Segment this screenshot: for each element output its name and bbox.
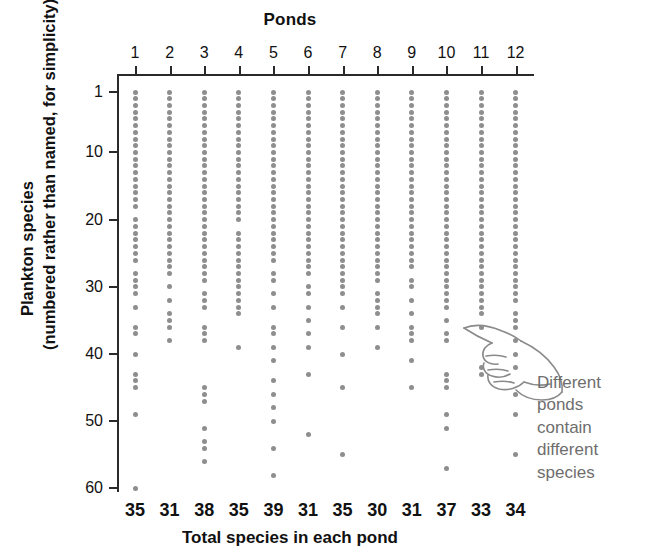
dot-pond4-species16 [236,190,241,195]
dot-pond5-species14 [271,177,276,182]
dot-pond1-species33 [133,305,138,310]
y-tick-label-30: 30 [57,278,103,296]
dot-pond3-species4 [202,110,207,115]
dot-pond3-species10 [202,150,207,155]
dot-pond2-species30 [167,284,172,289]
dot-pond12-species34 [513,311,518,316]
dot-pond3-species2 [202,96,207,101]
dot-pond8-species34 [375,311,380,316]
dot-pond12-species20 [513,217,518,222]
dot-pond8-species5 [375,116,380,121]
dot-pond9-species34 [409,311,414,316]
dot-pond9-species26 [409,258,414,263]
dot-pond8-species1 [375,90,380,95]
dot-pond5-species24 [271,244,276,249]
dot-pond5-species22 [271,231,276,236]
dot-pond5-species10 [271,150,276,155]
dot-pond11-species15 [479,184,484,189]
y-tick-60 [109,487,117,489]
dot-pond5-species25 [271,251,276,256]
dot-pond10-species26 [444,258,449,263]
dot-pond8-species10 [375,150,380,155]
dot-pond5-species2 [271,96,276,101]
dot-pond5-species46 [271,392,276,397]
dot-pond11-species33 [479,305,484,310]
dot-pond8-species31 [375,291,380,296]
dot-pond7-species8 [340,137,345,142]
dot-pond3-species54 [202,446,207,451]
dot-pond6-species15 [306,184,311,189]
dot-pond9-species14 [409,177,414,182]
pond-label-8: 8 [360,44,394,62]
dot-pond6-species27 [306,264,311,269]
dot-pond3-species6 [202,123,207,128]
dot-pond5-species17 [271,197,276,202]
dot-pond6-species14 [306,177,311,182]
dot-pond9-species20 [409,217,414,222]
dot-pond7-species19 [340,210,345,215]
dot-pond7-species1 [340,90,345,95]
dot-pond3-species15 [202,184,207,189]
pond-label-1: 1 [118,44,152,62]
dot-pond7-species9 [340,143,345,148]
dot-pond1-species18 [133,204,138,209]
dot-pond12-species8 [513,137,518,142]
dot-pond2-species6 [167,123,172,128]
dot-pond3-species1 [202,90,207,95]
dot-pond10-species57 [444,466,449,471]
dot-pond8-species24 [375,244,380,249]
dot-pond6-species17 [306,197,311,202]
total-pond-12: 34 [496,500,536,521]
y-tick-1 [109,91,117,93]
dot-pond8-species36 [375,325,380,330]
dot-pond10-species31 [444,291,449,296]
dot-pond6-species9 [306,143,311,148]
dot-pond8-species25 [375,251,380,256]
dot-pond10-species45 [444,385,449,390]
dot-pond10-species23 [444,237,449,242]
dot-pond12-species11 [513,157,518,162]
dot-pond2-species9 [167,143,172,148]
dot-pond6-species7 [306,130,311,135]
dot-pond11-species26 [479,258,484,263]
dot-pond12-species7 [513,130,518,135]
dot-pond3-species38 [202,338,207,343]
dot-pond9-species6 [409,123,414,128]
dot-pond10-species37 [444,331,449,336]
dot-pond10-species6 [444,123,449,128]
dot-pond10-species1 [444,90,449,95]
dot-pond9-species25 [409,251,414,256]
dot-pond5-species50 [271,419,276,424]
dot-pond1-species14 [133,177,138,182]
dot-pond5-species41 [271,358,276,363]
dot-pond3-species9 [202,143,207,148]
dot-pond11-species20 [479,217,484,222]
dot-pond7-species27 [340,264,345,269]
dot-pond1-species11 [133,157,138,162]
dot-pond10-species49 [444,412,449,417]
y-tick-label-40: 40 [57,345,103,363]
dot-pond8-species3 [375,103,380,108]
dot-pond3-species14 [202,177,207,182]
top-axis-line [119,74,534,76]
dot-pond9-species4 [409,110,414,115]
dot-pond7-species45 [340,385,345,390]
dot-pond2-species28 [167,271,172,276]
dot-pond7-species28 [340,271,345,276]
dot-pond6-species1 [306,90,311,95]
dot-pond12-species49 [513,412,518,417]
dot-pond5-species4 [271,110,276,115]
dot-pond7-species29 [340,278,345,283]
dot-pond12-species12 [513,163,518,168]
dot-pond5-species33 [271,305,276,310]
dot-pond4-species6 [236,123,241,128]
dot-pond11-species29 [479,278,484,283]
dot-pond3-species24 [202,244,207,249]
top-tick-7 [343,66,345,75]
annotation-line-4: different [537,439,651,461]
dot-pond8-species23 [375,237,380,242]
dot-pond4-species27 [236,264,241,269]
annotation-text: Different ponds contain different specie… [537,372,651,484]
dot-pond1-species16 [133,190,138,195]
dot-pond6-species2 [306,96,311,101]
